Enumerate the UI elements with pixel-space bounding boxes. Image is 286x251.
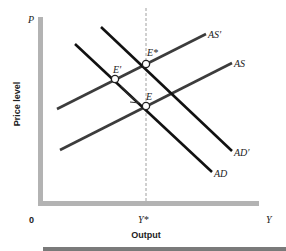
label-e-prime: E′	[112, 64, 122, 75]
label-e-star: E*	[146, 47, 158, 58]
x-tick-y-star: Y*	[138, 214, 149, 225]
x-axis-title: Output	[131, 230, 161, 240]
label-ad: AD	[213, 168, 228, 179]
point-e-prime	[111, 75, 118, 82]
ad-prime-curve	[101, 27, 232, 151]
bottom-divider-bar	[43, 247, 286, 251]
origin-label: 0	[29, 215, 34, 225]
y-axis	[38, 17, 43, 206]
label-as-prime: AS′	[207, 29, 222, 40]
label-ad-prime: AD′	[233, 147, 250, 158]
ad-as-diagram: E* E′ E AS′ AS AD′ AD P Y 0 Y* Output Pr…	[0, 0, 286, 251]
x-axis	[38, 201, 259, 206]
point-e-star	[142, 60, 149, 67]
label-e: E	[145, 91, 152, 102]
label-as: AS	[233, 58, 245, 69]
y-axis-title: Price level	[12, 82, 22, 127]
point-e	[142, 102, 149, 109]
x-axis-symbol: Y	[266, 214, 273, 225]
y-axis-symbol: P	[27, 14, 34, 25]
